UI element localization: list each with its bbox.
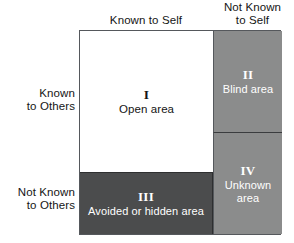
quadrant-hidden-area: III Avoided or hidden area xyxy=(80,172,213,234)
column-header-not-known-to-self: Not Known to Self xyxy=(211,1,294,27)
row-header-not-known-to-others: Not Known to Others xyxy=(0,186,75,212)
quadrant-matrix: I Open area II Blind area III Avoided or… xyxy=(79,30,281,235)
quadrant-hidden-numeral: III xyxy=(138,189,154,204)
row-header-known-to-others: Known to Others xyxy=(0,87,75,113)
quadrant-unknown-caption: Unknown area xyxy=(225,179,272,204)
quadrant-open-caption: Open area xyxy=(119,103,174,116)
quadrant-blind-numeral: II xyxy=(243,67,254,82)
quadrant-hidden-caption: Avoided or hidden area xyxy=(88,205,204,218)
quadrant-unknown-numeral: IV xyxy=(240,163,255,178)
column-header-known-to-self: Known to Self xyxy=(79,14,213,27)
quadrant-blind-caption: Blind area xyxy=(223,83,274,96)
quadrant-unknown-area: IV Unknown area xyxy=(213,133,282,234)
quadrant-blind-area: II Blind area xyxy=(213,31,282,133)
quadrant-open-numeral: I xyxy=(144,87,150,102)
quadrant-open-area: I Open area xyxy=(80,31,213,172)
johari-window-diagram: Known to Self Not Known to Self Known to… xyxy=(0,0,294,243)
